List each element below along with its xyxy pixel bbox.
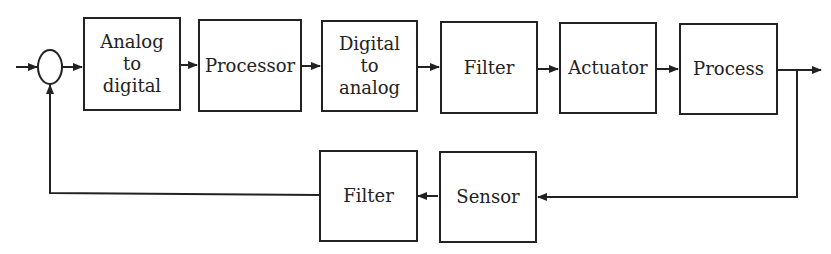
actuator-block: Actuator <box>559 22 657 114</box>
dac-block: Digital to analog <box>321 20 418 112</box>
process-block: Process <box>679 23 778 115</box>
filter-feedback-block: Filter <box>319 150 418 242</box>
summing-junction <box>38 50 62 84</box>
sensor-block: Sensor <box>439 151 537 243</box>
filter-forward-block: Filter <box>440 21 538 114</box>
adc-block: Analog to digital <box>83 17 181 111</box>
processor-block: Processor <box>198 19 302 112</box>
